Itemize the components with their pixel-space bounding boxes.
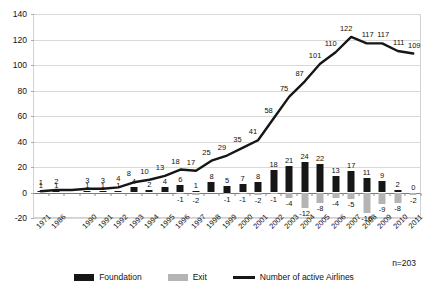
foundation-data-label: 7 [240, 175, 244, 183]
exit-data-label: -2 [255, 197, 262, 205]
legend-item: Number of active Airlines [233, 272, 354, 282]
chart-category: 8-2 [250, 14, 266, 218]
foundation-data-label: 1 [54, 182, 58, 190]
foundation-data-label: 21 [285, 157, 293, 165]
foundation-data-label: 1 [116, 182, 120, 190]
foundation-data-label: 11 [363, 169, 371, 177]
foundation-data-label: 8 [209, 173, 213, 181]
foundation-bar [270, 170, 277, 193]
chart-category: 18-1 [266, 14, 282, 218]
exit-data-label: -4 [286, 200, 293, 208]
chart-category: 9-9 [374, 14, 390, 218]
foundation-bar [286, 166, 293, 193]
foundation-data-label: 0 [411, 184, 415, 192]
foundation-bar [130, 187, 137, 192]
y-axis-tick-label: 60 [18, 112, 27, 121]
chart-category: 1 [80, 14, 96, 218]
bar-series-layer: 111114246-11-285-17-18-218-121-424-1222-… [33, 14, 421, 218]
y-axis-tick-label: 40 [18, 137, 27, 146]
foundation-data-label: 22 [316, 155, 324, 163]
chart-legend: FoundationExitNumber of active Airlines [0, 272, 428, 282]
exit-data-label: -9 [379, 206, 386, 214]
foundation-data-label: 17 [347, 162, 355, 170]
exit-data-label: -1 [239, 196, 246, 204]
foundation-data-label: 2 [396, 181, 400, 189]
chart-category: 0-2 [405, 14, 421, 218]
foundation-data-label: 1 [101, 182, 105, 190]
foundation-data-label: 2 [147, 181, 151, 189]
y-axis-tick-label: -20 [15, 214, 27, 223]
y-axis-tick-label: 0 [22, 188, 27, 197]
foundation-bar [84, 191, 91, 192]
exit-data-label: -2 [193, 197, 200, 205]
legend-label: Foundation [99, 272, 142, 282]
chart-category: 1 [111, 14, 127, 218]
foundation-data-label: 5 [225, 177, 229, 185]
foundation-bar [53, 191, 60, 192]
foundation-data-label: 1 [85, 182, 89, 190]
exit-bar [379, 193, 386, 204]
chart-category: 22-8 [312, 14, 328, 218]
foundation-data-label: 13 [331, 167, 339, 175]
chart-category: 17-5 [343, 14, 359, 218]
foundation-bar [208, 182, 215, 192]
exit-data-label: -8 [394, 205, 401, 213]
exit-bar [223, 193, 230, 194]
foundation-data-label: 4 [163, 178, 167, 186]
foundation-bar [255, 182, 262, 192]
exit-data-label: -8 [317, 205, 324, 213]
exit-bar [255, 193, 262, 196]
chart-category: 13-4 [328, 14, 344, 218]
exit-data-label: -4 [332, 200, 339, 208]
y-axis-tick-label: 140 [13, 10, 27, 19]
foundation-bar [379, 181, 386, 192]
exit-data-label: -1 [270, 196, 277, 204]
foundation-data-label: 18 [269, 161, 277, 169]
legend-item: Exit [168, 272, 207, 282]
foundation-data-label: 8 [256, 173, 260, 181]
foundation-bar [99, 191, 106, 192]
foundation-bar [348, 171, 355, 193]
foundation-data-label: 1 [39, 182, 43, 190]
x-tick-mark [420, 193, 421, 196]
legend-item: Foundation [74, 272, 142, 282]
exit-bar [363, 193, 370, 213]
y-axis-tick-label: 80 [18, 86, 27, 95]
exit-bar [332, 193, 339, 198]
exit-bar [301, 193, 308, 208]
exit-bar [348, 193, 355, 199]
chart-category: 7-1 [235, 14, 251, 218]
foundation-bar [161, 187, 168, 192]
sample-size-annotation: n=203 [392, 258, 416, 268]
foundation-bar [317, 164, 324, 192]
x-axis-labels: 1971198619901991199219931994199519961997… [33, 219, 421, 259]
y-axis-tick-label: 100 [13, 61, 27, 70]
chart-category: 1 [33, 14, 49, 218]
legend-swatch [233, 276, 255, 279]
exit-bar [239, 193, 246, 194]
foundation-bar [301, 162, 308, 193]
chart-category: 1 [95, 14, 111, 218]
chart-category: 1 [49, 14, 65, 218]
foundation-bar [37, 191, 44, 192]
foundation-data-label: 6 [178, 176, 182, 184]
y-axis-tick-label: 120 [13, 35, 27, 44]
exit-data-label: -1 [224, 196, 231, 204]
chart-container: -20020406080100120140 111114246-11-285-1… [0, 0, 428, 302]
chart-category [64, 14, 80, 218]
foundation-bar [239, 184, 246, 193]
chart-category: 24-12 [297, 14, 313, 218]
foundation-data-label: 4 [132, 178, 136, 186]
exit-data-label: -1 [177, 196, 184, 204]
foundation-bar [115, 191, 122, 192]
exit-bar [192, 193, 199, 196]
chart-category: 6-1 [173, 14, 189, 218]
foundation-data-label: 9 [380, 172, 384, 180]
chart-category: 8 [204, 14, 220, 218]
legend-swatch [168, 274, 188, 281]
foundation-data-label: 1 [194, 182, 198, 190]
chart-category: 1-2 [188, 14, 204, 218]
exit-bar [410, 193, 417, 196]
exit-data-label: -5 [348, 201, 355, 209]
legend-label: Number of active Airlines [260, 272, 354, 282]
